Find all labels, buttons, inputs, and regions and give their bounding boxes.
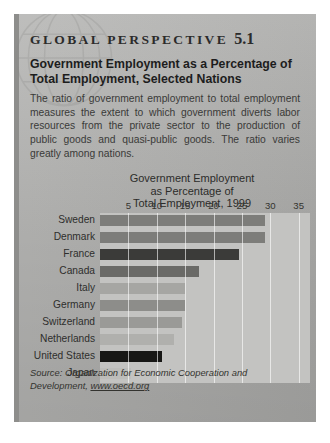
category-label: Netherlands (40, 333, 95, 344)
source-note: Source: Organization for Economic Cooper… (30, 367, 306, 392)
category-label: Switzerland (42, 316, 95, 327)
category-label: Germany (53, 299, 95, 310)
bar-rows: SwedenDenmarkFranceCanadaItalyGermanySwi… (100, 213, 310, 383)
bar-row: Canada (100, 264, 310, 281)
category-label: Italy (76, 282, 95, 293)
bar (100, 317, 182, 328)
category-label: France (63, 248, 95, 259)
bar-row: Denmark (100, 230, 310, 247)
category-label: Canada (59, 265, 95, 276)
bar-row: United States (100, 349, 310, 366)
gridline (185, 213, 186, 383)
bar-row: Netherlands (100, 332, 310, 349)
bar-row: Sweden (100, 213, 310, 230)
x-axis-tick-label: 30 (265, 200, 276, 211)
kicker-label: GLOBAL PERSPECTIVE (30, 32, 228, 47)
bar-row: Switzerland (100, 315, 310, 332)
bar (100, 300, 185, 311)
x-axis-tick-label: 35 (293, 200, 304, 211)
gridline (270, 213, 271, 383)
x-axis: 5101520253035 (100, 200, 310, 213)
x-axis-tick-label: 5 (126, 200, 131, 211)
gridline (128, 213, 129, 383)
plot-area: 5101520253035 SwedenDenmarkFranceCanadaI… (100, 213, 310, 383)
gridline (299, 213, 300, 383)
bar-row: Italy (100, 281, 310, 298)
gridline (214, 213, 215, 383)
body-paragraph: The ratio of government employment to to… (30, 92, 300, 160)
x-axis-tick-label: 10 (151, 200, 162, 211)
chart-title-line-2: as Percentage of (74, 185, 310, 198)
source-url-link[interactable]: www.oecd.org (90, 380, 149, 392)
kicker: GLOBAL PERSPECTIVE5.1 (30, 30, 308, 48)
kicker-number: 5.1 (234, 30, 254, 47)
bar (100, 232, 265, 243)
x-axis-tick-label: 25 (237, 200, 248, 211)
category-label: United States (34, 350, 95, 361)
chart: Government Employment as Percentage of T… (22, 172, 310, 383)
bar-row: France (100, 247, 310, 264)
page-title: Government Employment as a Percentage of… (30, 57, 298, 86)
x-axis-tick-label: 20 (208, 200, 219, 211)
gridline (242, 213, 243, 383)
bar (100, 334, 174, 345)
x-axis-tick-label: 15 (180, 200, 191, 211)
category-label: Denmark (54, 231, 95, 242)
bar (100, 215, 265, 226)
global-perspective-box: GLOBAL PERSPECTIVE5.1 Government Employm… (14, 14, 316, 422)
bar-row: Germany (100, 298, 310, 315)
bar (100, 249, 239, 260)
gridline (157, 213, 158, 383)
category-label: Sweden (58, 214, 95, 225)
bar (100, 351, 162, 362)
chart-title-line-1: Government Employment (74, 172, 310, 185)
bar (100, 283, 185, 294)
